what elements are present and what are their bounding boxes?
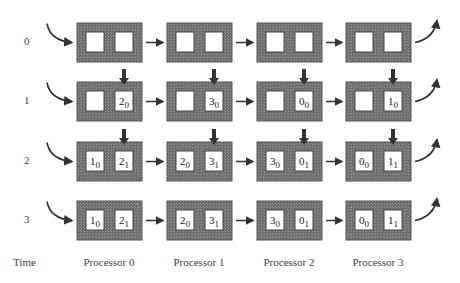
processor-label: Processor 2	[244, 256, 334, 268]
input-curve-arrow	[47, 143, 72, 162]
cell-value: 31	[205, 151, 223, 171]
processor-label: Processor 3	[333, 256, 423, 268]
cell-value: 20	[115, 91, 133, 111]
input-curve-arrow	[47, 24, 72, 43]
cell-value: 30	[205, 91, 223, 111]
cell-value: 10	[86, 151, 104, 171]
input-down-arrow-stem	[302, 69, 306, 79]
processor-label: Processor 1	[154, 256, 244, 268]
cell-value: 30	[266, 151, 284, 171]
input-curve-arrow	[47, 83, 72, 102]
cell-value: 01	[295, 151, 313, 171]
cell-value: 10	[384, 91, 402, 111]
cell-value: 11	[384, 151, 402, 171]
time-step-label: 0	[24, 35, 30, 47]
time-step-label: 2	[24, 154, 30, 166]
input-down-arrow-stem	[212, 69, 216, 79]
cell-value: 20	[176, 210, 194, 230]
register-cell	[205, 32, 223, 52]
register-cell	[384, 32, 402, 52]
diagram-canvas	[0, 0, 460, 283]
cell-value: 00	[295, 91, 313, 111]
register-cell	[86, 91, 104, 111]
input-down-arrow-stem	[391, 69, 395, 79]
register-cell	[176, 32, 194, 52]
output-curve-arrow	[415, 21, 437, 43]
input-down-arrow-stem	[391, 129, 395, 139]
pipeline-diagram: 0120300010210212031300100113102120313001…	[0, 0, 460, 283]
cell-value: 01	[295, 210, 313, 230]
register-cell	[86, 32, 104, 52]
processor-label: Processor 0	[64, 256, 154, 268]
input-curve-arrow	[47, 202, 72, 221]
cell-value: 31	[205, 210, 223, 230]
input-down-arrow-stem	[122, 129, 126, 139]
cell-value: 00	[355, 151, 373, 171]
register-cell	[266, 91, 284, 111]
cell-value: 00	[355, 210, 373, 230]
cell-value: 21	[115, 151, 133, 171]
cell-value: 11	[384, 210, 402, 230]
register-cell	[266, 32, 284, 52]
output-curve-arrow	[415, 140, 437, 162]
time-step-label: 3	[24, 213, 30, 225]
register-cell	[295, 32, 313, 52]
input-down-arrow-stem	[122, 69, 126, 79]
input-down-arrow-stem	[302, 129, 306, 139]
cell-value: 20	[176, 151, 194, 171]
output-curve-arrow	[415, 80, 437, 102]
time-step-label: 1	[24, 94, 30, 106]
output-curve-arrow	[415, 199, 437, 221]
cell-value: 30	[266, 210, 284, 230]
register-cell	[355, 32, 373, 52]
register-cell	[355, 91, 373, 111]
cell-value: 10	[86, 210, 104, 230]
register-cell	[115, 32, 133, 52]
time-axis-label: Time	[13, 256, 36, 268]
register-cell	[176, 91, 194, 111]
input-down-arrow-stem	[212, 129, 216, 139]
cell-value: 21	[115, 210, 133, 230]
